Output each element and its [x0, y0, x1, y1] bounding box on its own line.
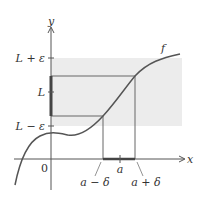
label-left-delta: a − δ: [80, 176, 110, 189]
label-limit: L: [37, 86, 45, 99]
label-right-delta: a + δ: [131, 176, 161, 189]
x-axis-label: x: [187, 153, 194, 166]
epsilon-delta-diagram: y x 0 f L + ε L L − ε a − δ a a + δ: [0, 0, 202, 202]
y-axis-label: y: [47, 15, 55, 28]
origin-label: 0: [41, 162, 48, 175]
curve-label: f: [160, 42, 167, 55]
label-lower-epsilon: L − ε: [15, 120, 46, 133]
label-a: a: [117, 163, 124, 176]
leader-left-delta: [95, 162, 101, 176]
leader-right-delta: [137, 162, 143, 176]
label-upper-epsilon: L + ε: [15, 52, 46, 65]
